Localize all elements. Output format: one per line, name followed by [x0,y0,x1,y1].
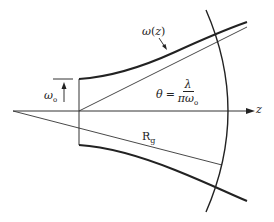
beam-radius-symbol: ω [142,25,151,38]
radius-of-curvature-line [13,111,222,165]
z-axis-label: z [256,103,262,116]
denominator-subscript: o [194,99,198,107]
omega-z-pointer-arrowhead [162,44,167,50]
lower-beam-envelope [79,145,247,201]
fraction-numerator: λ [183,78,194,92]
theta-symbol: θ [156,88,163,101]
divergence-formula: θ = λ πωo [156,78,198,110]
denominator-main: πω [178,92,194,105]
waist-label: ωo [44,89,57,104]
equals-sign: = [166,88,175,101]
divergence-fraction: λ πωo [178,78,198,110]
waist-symbol: ω [44,89,53,102]
beam-radius-label: ω(z) [142,25,165,38]
radius-of-curvature-label: Rg [142,130,155,145]
z-axis-arrowhead [246,108,255,114]
waist-subscript: o [53,96,57,104]
waist-arrow-icon [62,82,67,89]
rg-subscript: g [150,136,155,145]
paren-close: ) [161,25,165,38]
fraction-denominator: πωo [178,92,198,110]
gaussian-beam-diagram [0,0,274,222]
